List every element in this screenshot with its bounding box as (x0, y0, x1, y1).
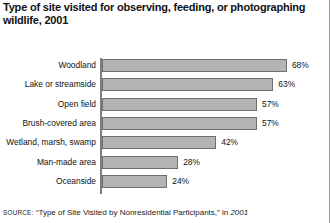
bar-category-label: Wetland, marsh, swamp (0, 136, 96, 149)
bar-chart-plot-area: Woodland68%Lake or streamside63%Open fie… (0, 56, 322, 194)
bar-row: Oceanside24% (0, 175, 322, 188)
bar-category-label: Oceanside (0, 175, 96, 188)
source-title: “Type of Site Visited by Nonresidential … (36, 208, 220, 217)
figure-panel: Type of site visited for observing, feed… (0, 0, 330, 223)
bar-category-label: Lake or streamside (0, 78, 96, 91)
bar-fill (102, 136, 216, 149)
bar-row: Brush-covered area57% (0, 117, 322, 130)
bar-value-label: 42% (221, 136, 238, 149)
bar-row: Open field57% (0, 98, 322, 111)
chart-title: Type of site visited for observing, feed… (3, 1, 315, 27)
bar-value-label: 57% (262, 117, 279, 130)
bar-fill (102, 59, 287, 72)
bar-value-label: 63% (278, 78, 295, 91)
bar-value-label: 68% (292, 59, 309, 72)
bar-fill (102, 156, 178, 169)
bar-row: Man-made area28% (0, 156, 322, 169)
bar-value-label: 28% (183, 156, 200, 169)
bar-category-label: Woodland (0, 59, 96, 72)
bar-fill (102, 117, 257, 130)
bar-value-label: 57% (262, 98, 279, 111)
source-connector: in (222, 208, 228, 217)
bar-row: Lake or streamside63% (0, 78, 322, 91)
bar-category-label: Open field (0, 98, 96, 111)
source-publication: 2001 (230, 208, 248, 217)
source-label: SOURCE: (3, 209, 34, 216)
bar-category-label: Man-made area (0, 156, 96, 169)
bar-category-label: Brush-covered area (0, 117, 96, 130)
bar-fill (102, 98, 257, 111)
bar-value-label: 24% (172, 175, 189, 188)
bar-row: Wetland, marsh, swamp42% (0, 136, 322, 149)
bar-fill (102, 78, 273, 91)
source-note: SOURCE: “Type of Site Visited by Nonresi… (3, 208, 318, 218)
bar-fill (102, 175, 167, 188)
bar-row: Woodland68% (0, 59, 322, 72)
